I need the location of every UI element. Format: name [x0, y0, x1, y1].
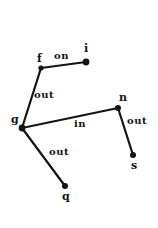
edge-label-g-q: out — [49, 147, 69, 157]
edge-f-i — [41, 62, 86, 68]
edge-label-g-n: in — [74, 119, 86, 129]
node-label-q: q — [62, 191, 70, 202]
edge-g-n — [22, 108, 118, 128]
graph-svg — [0, 0, 158, 228]
node-label-f: f — [37, 53, 42, 64]
node-dot-n — [115, 105, 121, 111]
node-dot-f — [38, 65, 43, 70]
node-label-n: n — [119, 92, 127, 103]
node-dot-s — [130, 152, 136, 158]
edge-label-g-f: out — [34, 90, 54, 100]
node-dot-g — [19, 125, 26, 132]
edge-label-n-s: out — [127, 116, 147, 126]
node-label-s: s — [131, 160, 137, 171]
edge-g-q — [22, 128, 65, 186]
edge-label-f-i: on — [54, 51, 69, 61]
node-label-g: g — [11, 114, 19, 125]
diagram-canvas: onoutinoutoutfignsq — [0, 0, 158, 228]
node-label-i: i — [84, 43, 88, 54]
node-dot-q — [62, 183, 68, 189]
node-dot-i — [83, 59, 90, 66]
